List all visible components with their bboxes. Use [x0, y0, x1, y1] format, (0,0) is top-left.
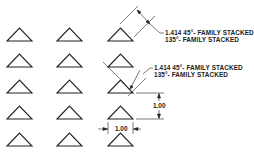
extension-line	[120, 6, 138, 24]
triangle	[7, 133, 32, 146]
triangle	[57, 80, 82, 93]
triangle	[57, 28, 82, 41]
extension-line	[103, 62, 125, 84]
triangle	[108, 28, 133, 41]
arrowhead	[134, 128, 139, 131]
callout-upper-line2: 135°- FAMILY STACKED	[165, 36, 239, 43]
callout-upper-line1: 1.414 45°- FAMILY STACKED	[165, 29, 254, 36]
triangle	[57, 54, 82, 67]
aligned-dimension-upper	[120, 6, 164, 37]
arrowhead	[130, 85, 133, 89]
callout-lower-line1: 1.414 45°- FAMILY STACKED	[154, 64, 243, 71]
leader-line	[150, 24, 160, 33]
arrowhead	[158, 94, 161, 99]
leader-line	[143, 68, 150, 74]
callout-lower-line2: 135°- FAMILY STACKED	[154, 71, 228, 78]
arrowhead	[103, 128, 108, 131]
vertical-dimension-value: 1.00	[153, 102, 165, 109]
triangle	[7, 54, 32, 67]
triangle	[108, 80, 133, 93]
horizontal-dimension-value: 1.00	[115, 125, 127, 132]
triangle	[7, 106, 32, 119]
triangle	[57, 106, 82, 119]
triangle	[108, 54, 133, 67]
triangle	[7, 28, 32, 41]
triangle	[7, 80, 32, 93]
extension-line	[134, 16, 155, 37]
triangle	[57, 133, 82, 146]
arrowhead	[158, 114, 161, 119]
triangle	[108, 106, 133, 119]
triangle	[108, 133, 133, 146]
